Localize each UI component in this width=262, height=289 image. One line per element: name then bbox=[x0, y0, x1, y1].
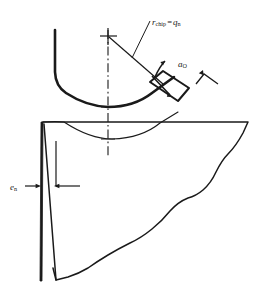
en-dimension-arrow-right-icon bbox=[54, 184, 80, 189]
label-a0-sub: O bbox=[183, 62, 187, 69]
label-edge-dimension: en bbox=[10, 177, 17, 193]
tool-sliver bbox=[40, 122, 43, 281]
label-rchip-sub: chip bbox=[156, 20, 167, 27]
en-dimension-arrow-left-icon bbox=[25, 184, 41, 189]
tool-body-outline bbox=[43, 122, 248, 280]
label-rchip-equals: = bbox=[166, 17, 173, 27]
a0-leader-icon bbox=[196, 70, 218, 84]
chip-inner-arc bbox=[43, 112, 178, 139]
sliver-right-edge bbox=[44, 124, 56, 280]
label-qn-sub: n bbox=[177, 20, 180, 27]
radius-label-leader bbox=[132, 21, 150, 58]
chip-formation-diagram bbox=[0, 0, 262, 289]
label-en-sub: n bbox=[14, 185, 17, 192]
label-chip-thickness: aO bbox=[178, 54, 187, 70]
label-chip-radius: rchip=qn bbox=[152, 12, 181, 28]
